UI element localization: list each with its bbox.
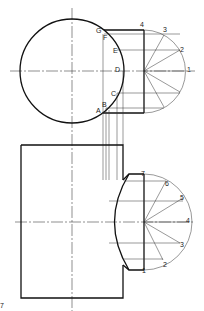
- front-radial-lines: [144, 181, 188, 260]
- svg-text:1: 1: [187, 66, 191, 73]
- construction-drawing: G F E D C B A 4 3 2 1 7 6 5 4 3 2 1 7: [0, 0, 204, 311]
- corner-label: 7: [0, 302, 4, 309]
- top-radial-lines: [144, 35, 185, 107]
- svg-text:C: C: [111, 90, 116, 97]
- svg-text:1: 1: [142, 267, 146, 274]
- svg-text:D: D: [115, 66, 120, 73]
- svg-text:5: 5: [180, 194, 184, 201]
- svg-text:3: 3: [163, 26, 167, 33]
- svg-text:G: G: [96, 27, 101, 34]
- svg-text:F: F: [103, 34, 107, 41]
- svg-text:4: 4: [186, 217, 190, 224]
- svg-text:A: A: [96, 107, 101, 114]
- svg-text:B: B: [102, 101, 107, 108]
- svg-text:6: 6: [165, 180, 169, 187]
- svg-text:2: 2: [180, 46, 184, 53]
- svg-text:E: E: [113, 47, 118, 54]
- svg-text:2: 2: [163, 261, 167, 268]
- svg-text:7: 7: [141, 170, 145, 177]
- top-semicircle: [144, 30, 185, 113]
- svg-text:4: 4: [140, 21, 144, 28]
- svg-text:3: 3: [180, 241, 184, 248]
